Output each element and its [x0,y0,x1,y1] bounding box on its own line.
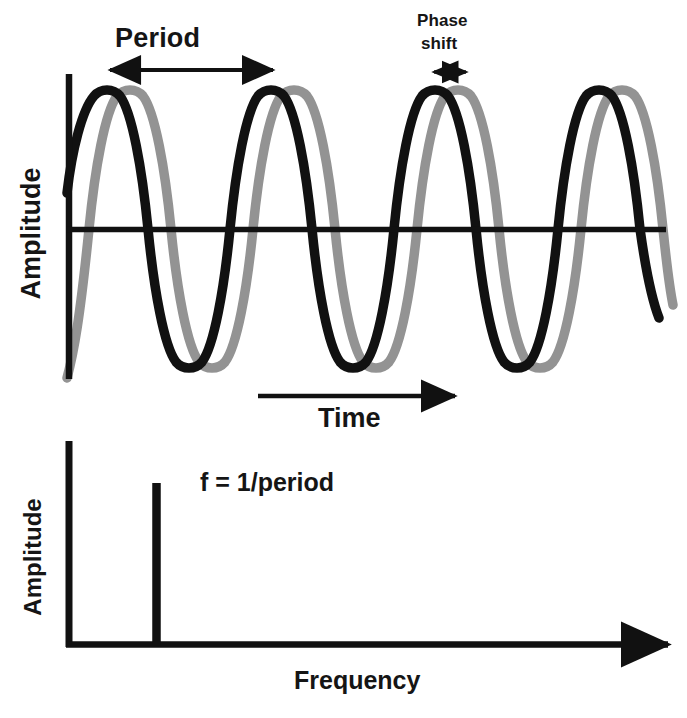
period-label: Period [115,25,200,52]
phase-shift-label-line2: shift [421,35,457,52]
top-panel-x-axis-label: Time [318,405,381,432]
bottom-panel-y-axis-label: Amplitude [21,482,45,632]
bottom-panel-x-axis-label: Frequency [294,668,420,693]
waveform-shifted-gray [67,90,673,378]
figure-root: Period Phase shift Amplitude Time Amplit… [0,0,687,718]
diagram-canvas [0,0,687,718]
top-panel-y-axis-label: Amplitude [18,159,45,309]
phase-shift-label-line1: Phase [417,12,468,29]
frequency-formula-annotation: f = 1/period [200,470,334,495]
